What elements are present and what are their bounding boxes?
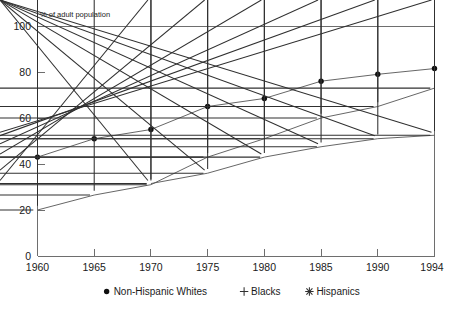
legend-marker-plus-icon — [240, 287, 248, 295]
chart-container: % of adult population 100 80 60 40 20 0 … — [0, 0, 458, 309]
series-layer — [0, 0, 437, 210]
plot-frame — [38, 26, 435, 256]
x-tick-label-1994: 1994 — [420, 261, 444, 273]
legend-item-hispanics[interactable]: Hispanics — [305, 286, 360, 297]
legend-item-non-hispanic-whites[interactable]: Non-Hispanic Whites — [104, 286, 207, 297]
legend-item-blacks[interactable]: Blacks — [240, 286, 281, 297]
data-point-star — [0, 0, 321, 147]
x-tick-label-1975: 1975 — [196, 261, 220, 273]
x-tick-label-1970: 1970 — [139, 261, 163, 273]
x-tick-label-1960: 1960 — [26, 261, 50, 273]
legend-label: Blacks — [251, 286, 280, 297]
series-hispanics — [0, 0, 435, 184]
legend-marker-star-icon — [305, 287, 313, 295]
x-tick-label-1980: 1980 — [253, 261, 277, 273]
legend-marker-dot-icon — [104, 289, 109, 294]
y-tick-label-100: 100 — [13, 20, 31, 32]
line-chart: % of adult population 100 80 60 40 20 0 … — [0, 0, 458, 309]
data-point-star — [0, 0, 264, 157]
x-tick-label-1990: 1990 — [366, 261, 390, 273]
legend-label: Non-Hispanic Whites — [114, 286, 207, 297]
series-non-hispanic-whites — [35, 66, 437, 160]
x-tick-label-1985: 1985 — [309, 261, 333, 273]
x-axis-tick-labels: 1960 1965 1970 1975 1980 1985 1990 1994 — [26, 261, 444, 273]
legend-label: Hispanics — [316, 286, 359, 297]
y-tick-label-40: 40 — [19, 158, 31, 170]
x-tick-label-1965: 1965 — [83, 261, 107, 273]
data-point-star — [0, 0, 435, 135]
y-axis-title: % of adult population — [40, 10, 110, 19]
chart-legend: Non-Hispanic WhitesBlacksHispanics — [104, 286, 360, 297]
x-axis-ticks — [38, 249, 435, 256]
y-tick-label-80: 80 — [19, 66, 31, 78]
